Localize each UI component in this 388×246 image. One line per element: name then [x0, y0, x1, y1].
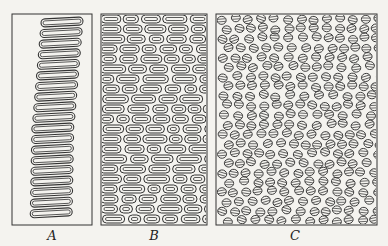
- panel-label-c: C: [290, 228, 300, 243]
- figure-canvas: [0, 0, 388, 246]
- panel-b: [99, 14, 230, 225]
- panel-c: [216, 13, 386, 227]
- panel-label-b: B: [149, 228, 159, 243]
- panel-a: [12, 14, 92, 225]
- panel-label-a: A: [47, 228, 56, 243]
